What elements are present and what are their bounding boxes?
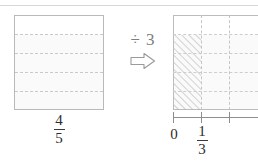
- left-row-divider-2: [15, 53, 103, 54]
- number-line: [173, 112, 258, 122]
- right-row-divider-2: [173, 53, 258, 54]
- left-row-divider-4: [15, 91, 103, 92]
- number-line-label-one-third: 1 3: [191, 124, 213, 157]
- right-row-divider-1: [173, 34, 258, 35]
- right-column-divider-2: [229, 15, 230, 110]
- left-fraction-denominator: 5: [48, 130, 70, 146]
- right-area-model: [173, 15, 258, 110]
- operation-group: ÷ 3: [120, 30, 166, 78]
- right-row-divider-4: [173, 91, 258, 92]
- top-divider-rule: [0, 5, 258, 6]
- divide-by-three-label: ÷ 3: [120, 30, 166, 50]
- right-arrow-outline-icon: [120, 52, 166, 70]
- number-line-tick-one-third: [201, 112, 202, 123]
- left-area-model: [14, 15, 104, 110]
- right-row-divider-3: [173, 72, 258, 73]
- number-line-axis: [173, 117, 258, 118]
- right-column-divider-1: [201, 15, 202, 110]
- one-third-numerator: 1: [191, 124, 213, 140]
- diagram-canvas: 4 5 ÷ 3: [0, 0, 258, 164]
- left-fraction-numerator: 4: [48, 113, 70, 129]
- left-row-divider-3: [15, 72, 103, 73]
- left-row-divider-1: [15, 34, 103, 35]
- one-third-denominator: 3: [191, 141, 213, 157]
- number-line-tick-two-thirds: [229, 112, 230, 123]
- number-line-label-zero: 0: [168, 126, 180, 142]
- left-fraction-label: 4 5: [48, 113, 70, 146]
- number-line-tick-0: [173, 112, 174, 123]
